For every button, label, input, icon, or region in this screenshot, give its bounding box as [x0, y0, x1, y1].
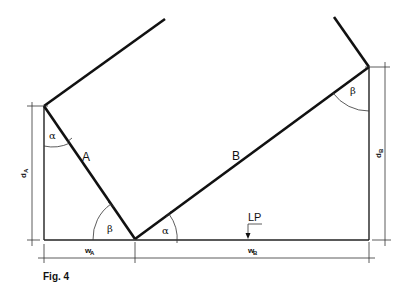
label-lp: LP [248, 211, 261, 223]
label-beta-right: β [350, 85, 356, 96]
svg-text:B: B [253, 250, 258, 256]
svg-text:A: A [90, 250, 95, 256]
label-w-a: w A [84, 246, 95, 256]
beta-arc-bottom [93, 204, 111, 240]
lp-arrow-icon [246, 233, 251, 239]
svg-text:B: B [378, 148, 384, 153]
label-beta-bottom: β [107, 223, 113, 234]
panel-a-line [44, 106, 135, 239]
figure-caption: Fig. 4 [43, 271, 70, 282]
label-d-b: d B [374, 148, 384, 158]
label-panel-b: B [232, 149, 240, 163]
alpha-arc-bottom [169, 214, 177, 243]
label-alpha-bottom: α [162, 225, 169, 236]
panel-b-top-line [334, 17, 369, 67]
panel-a-top-line [44, 19, 165, 106]
label-d-a: d A [19, 168, 29, 178]
diagram-canvas: A B α β α β LP d A d B w A w B Fig. 4 [0, 0, 407, 284]
label-alpha-left: α [49, 130, 56, 141]
alpha-arc-left [44, 143, 70, 147]
label-w-b: w B [247, 246, 258, 256]
svg-text:A: A [23, 168, 29, 173]
label-panel-a: A [82, 150, 90, 164]
